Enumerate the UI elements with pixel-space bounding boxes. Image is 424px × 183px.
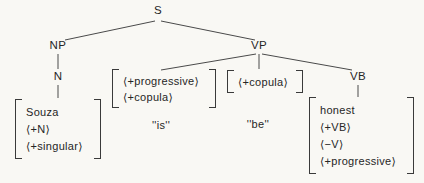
node-s: S: [146, 4, 170, 16]
matrix-bracket-right: [296, 70, 303, 93]
node-np: NP: [45, 39, 71, 51]
matrix-row: ⟨+singular⟩: [26, 138, 92, 155]
matrix-bracket-right: [209, 69, 216, 108]
matrix-row: ⟨−V⟩: [320, 136, 405, 153]
matrix-bracket-left: [15, 99, 22, 159]
matrix-row: ⟨+progressive⟩: [123, 73, 207, 89]
matrix-row: honest: [320, 102, 405, 119]
node-vp: VP: [246, 39, 272, 51]
vb-feature-matrix: honest ⟨+VB⟩ ⟨−V⟩ ⟨+progressive⟩: [309, 97, 414, 174]
matrix-bracket-right: [94, 99, 101, 159]
matrix-row: ⟨+VB⟩: [320, 119, 405, 136]
word-be: ''be'': [233, 118, 283, 130]
edge-s-np: [65, 21, 155, 40]
matrix-bracket-left: [112, 69, 119, 108]
matrix-row: ⟨+copula⟩: [123, 89, 207, 105]
edge-vp-progressive-matrix: [161, 54, 256, 70]
progressive-copula-matrix: ⟨+progressive⟩ ⟨+copula⟩: [112, 69, 216, 108]
edge-s-vp: [161, 21, 255, 40]
syntax-tree-diagram: S NP N VP VB ''is'' ''be'' Souza ⟨+N⟩ ⟨+…: [0, 0, 424, 183]
node-n: N: [45, 70, 71, 82]
matrix-bracket-left: [309, 97, 316, 174]
edge-vp-vb: [262, 54, 352, 70]
np-feature-matrix: Souza ⟨+N⟩ ⟨+singular⟩: [15, 99, 101, 159]
matrix-bracket-right: [407, 97, 414, 174]
matrix-row: Souza: [26, 104, 92, 121]
word-is: ''is'': [136, 119, 186, 131]
matrix-row: ⟨+N⟩: [26, 121, 92, 138]
copula-matrix: ⟨+copula⟩: [227, 70, 303, 93]
matrix-bracket-left: [227, 70, 234, 93]
node-vb: VB: [344, 70, 372, 82]
matrix-row: ⟨+progressive⟩: [320, 153, 405, 170]
matrix-row: ⟨+copula⟩: [238, 74, 294, 90]
